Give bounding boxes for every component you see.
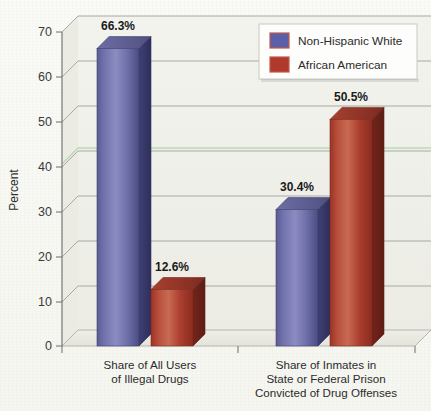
bar-white-inmates [276, 198, 330, 346]
x-category-label-1-line-1: Share of All Users [104, 358, 197, 371]
y-tick-label-30: 30 [38, 205, 52, 219]
data-label-black-inmates: 50.5% [334, 90, 368, 104]
data-label-black-users: 12.6% [155, 260, 189, 274]
y-tick-label-60: 60 [38, 70, 52, 84]
data-label-white-users: 66.3% [101, 19, 135, 33]
y-axis-title: Percent [7, 169, 21, 211]
chart-container: 70 60 50 40 30 20 10 0 Percent 66.3% 12.… [0, 0, 431, 411]
legend-swatch-african-american [270, 57, 289, 72]
x-category-label-2-line-2: State or Federal Prison [266, 372, 385, 385]
y-tick-label-20: 20 [38, 250, 52, 264]
x-category-label-2-line-1: Share of Inmates in [276, 358, 377, 371]
bar-black-inmates [330, 107, 384, 346]
plot-left-wall [62, 16, 78, 346]
legend: Non-Hispanic White African American [259, 24, 419, 82]
y-tick-label-40: 40 [38, 160, 52, 174]
x-category-label-1-line-2: of Illegal Drugs [111, 372, 189, 385]
data-label-white-inmates: 30.4% [280, 180, 314, 194]
legend-label-non-hispanic-white: Non-Hispanic White [298, 34, 403, 48]
y-axis-ticks [56, 32, 62, 346]
y-tick-label-10: 10 [38, 295, 52, 309]
y-tick-label-70: 70 [38, 25, 52, 39]
legend-box-shadow [261, 79, 419, 82]
bar-white-users [97, 37, 151, 346]
legend-item-african-american[interactable]: African American [270, 57, 387, 72]
legend-swatch-non-hispanic-white [270, 33, 289, 48]
y-tick-label-50: 50 [38, 115, 52, 129]
bar-black-users [151, 278, 205, 347]
x-axis-ticks [62, 346, 415, 353]
bar-chart: 70 60 50 40 30 20 10 0 Percent 66.3% 12.… [0, 0, 431, 411]
y-tick-label-0: 0 [45, 339, 52, 353]
x-category-label-2-line-3: Convicted of Drug Offenses [255, 386, 397, 399]
legend-label-african-american: African American [298, 58, 387, 72]
